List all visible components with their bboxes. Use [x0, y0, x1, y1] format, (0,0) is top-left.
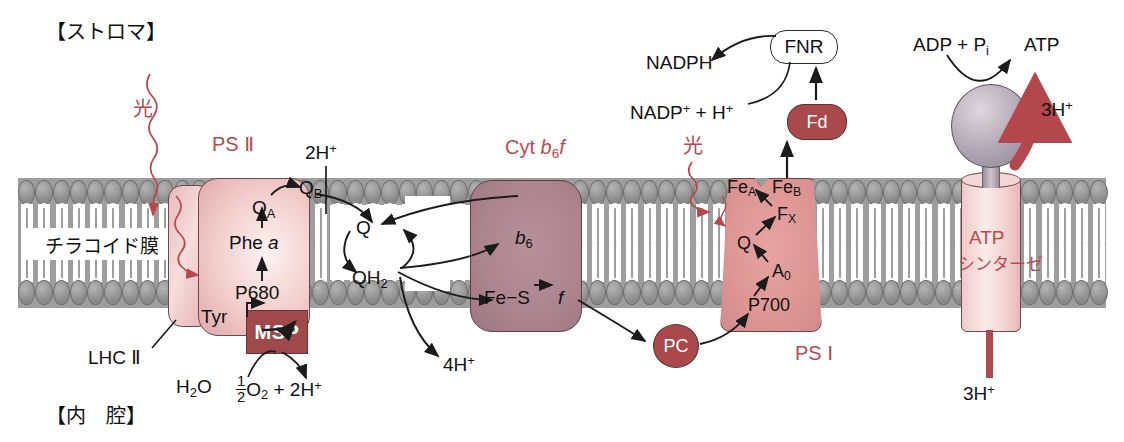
- line-nadp-to-fnr: [748, 62, 790, 104]
- arrow-q-to-fx: [756, 217, 775, 235]
- cyt-f-label: f: [558, 288, 563, 307]
- arrow-qa-to-qb: [271, 185, 300, 195]
- lhcii-label: LHC Ⅱ: [88, 348, 141, 367]
- two-protons-label: 2H+: [305, 143, 337, 162]
- feb-label: FeB: [772, 178, 801, 199]
- arrow-a0-to-q: [754, 245, 768, 262]
- arrow-p700-to-a0: [754, 277, 768, 296]
- atp-synthase-label-line2: シンターゼ: [958, 256, 1043, 273]
- arrow-qh2-to-q-right: [402, 230, 414, 268]
- cytb6f-label: Cyt b6f: [505, 137, 565, 160]
- arrow-b6-to-q: [382, 196, 518, 224]
- arrow-f-to-pc: [578, 300, 645, 341]
- arrow-pc-to-p700: [700, 314, 748, 344]
- cytb6f-f: f: [559, 136, 565, 158]
- leader-lhcii: [152, 320, 176, 348]
- light-ray-psi-2: [721, 196, 726, 226]
- a0-label: A0: [772, 262, 791, 283]
- water-label: H2O: [176, 377, 212, 400]
- cytb6f-prefix: Cyt: [505, 136, 541, 158]
- light-ray-psii-2: [175, 196, 198, 275]
- arrow-q-to-qh2-left: [344, 231, 356, 272]
- three-protons-bottom-label: 3H+: [963, 384, 995, 403]
- arrow-proton-efflux: [1015, 110, 1035, 165]
- light-label-psii: 光: [133, 99, 153, 119]
- light-ray-psii-1: [147, 74, 158, 215]
- qb-label: QB: [299, 178, 322, 201]
- fea-label: FeA: [727, 178, 756, 199]
- arrow-tyr-to-p680: [247, 303, 264, 317]
- psii-label: PS Ⅱ: [212, 134, 254, 154]
- light-ray-psi-1: [689, 162, 709, 212]
- photosynthesis-electron-transport-diagram: チラコイド膜 MSP Fd FNR PC: [0, 0, 1124, 442]
- arrow-adp-to-atp: [947, 55, 1010, 81]
- psi-label: PS Ⅰ: [795, 343, 833, 363]
- b6-label: b6: [515, 228, 533, 251]
- tyr-label: Tyr: [201, 307, 227, 326]
- nadph-label: NADPH: [646, 53, 713, 72]
- qa-label: QA: [252, 198, 275, 221]
- oxygen-product-label: 12O2 + 2H+: [236, 374, 322, 406]
- four-protons-label: 4H+: [443, 355, 475, 374]
- cytb6f-b: b: [541, 136, 552, 158]
- p680-label: P680: [235, 283, 279, 302]
- lumen-label: 【内 腔】: [46, 406, 146, 426]
- phe-a-label: Phe a: [229, 233, 279, 252]
- three-protons-top-label: 3H+: [1041, 100, 1073, 119]
- adp-pi-label: ADP + Pi: [913, 35, 989, 58]
- atp-product-label: ATP: [1024, 35, 1060, 54]
- atp-synthase-label-line1: ATP: [969, 228, 1005, 247]
- arrow-overlay: [0, 0, 1124, 442]
- psi-q-label: Q: [737, 234, 751, 252]
- p700-label: P700: [748, 296, 790, 314]
- one-half-fraction: 12: [236, 374, 246, 406]
- arrow-qh2-to-b6: [400, 244, 498, 268]
- q-pool-label: Q: [356, 218, 371, 237]
- light-label-psi: 光: [683, 136, 703, 156]
- nadp-plus-h-label: NADP+ + H+: [630, 103, 733, 122]
- arrow-fnr-to-nadph: [712, 36, 776, 60]
- stroma-label: 【ストロマ】: [46, 22, 166, 42]
- qh2-label: QH2: [352, 268, 388, 291]
- arrow-fx-to-fea: [756, 190, 772, 206]
- fes-label: Fe−S: [484, 288, 530, 307]
- fx-label: FX: [777, 205, 796, 226]
- arrow-msp-to-tyr: [262, 322, 295, 330]
- arrow-qh2-to-fes: [398, 272, 492, 300]
